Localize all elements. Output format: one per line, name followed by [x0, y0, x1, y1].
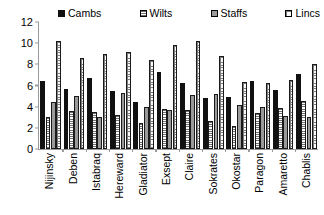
bar-wilts-istabraq	[92, 112, 97, 149]
x-axis-label: Istabraq	[91, 153, 102, 191]
legend-label-staffs: Staffs	[221, 8, 248, 19]
bar-cambs-istabraq	[87, 78, 92, 149]
bar-group	[225, 22, 248, 149]
bar-group	[109, 22, 132, 149]
legend-label-wilts: Wilts	[150, 8, 173, 19]
bar-cambs-gladiator	[133, 102, 138, 149]
x-axis-label-cell: Deben	[61, 153, 84, 213]
y-tick-label: 10	[21, 38, 33, 49]
bar-group	[272, 22, 295, 149]
legend-item-cambs: Cambs	[58, 8, 101, 19]
x-axis-label: Sokrates	[208, 153, 219, 194]
legend-swatch-wilts-icon	[140, 10, 147, 17]
bar-lincs-exsept	[173, 45, 178, 149]
bar-lincs-istabraq	[103, 54, 108, 149]
bar-staffs-amaretto	[283, 116, 288, 149]
bar-cambs-sokrates	[203, 98, 208, 149]
x-axis-label: Claire	[184, 153, 195, 180]
x-axis-label-cell: Okostar	[225, 153, 248, 213]
bar-group	[62, 22, 85, 149]
bar-group	[248, 22, 271, 149]
bar-cambs-chablis	[296, 74, 301, 149]
bar-staffs-okostar	[237, 105, 242, 149]
bar-staffs-deben	[74, 96, 79, 149]
x-axis-label-cell: Istabraq	[85, 153, 108, 213]
x-axis-label: Exsept	[161, 153, 172, 185]
bar-wilts-paragon	[255, 113, 260, 149]
x-axis-label-cell: Hereward	[108, 153, 131, 213]
x-axis-label: Gladiator	[138, 153, 149, 196]
bar-group	[39, 22, 62, 149]
bar-wilts-gladiator	[139, 123, 144, 149]
bar-wilts-exsept	[162, 109, 167, 149]
bar-lincs-sokrates	[219, 56, 224, 149]
bar-wilts-chablis	[301, 101, 306, 149]
y-tick-label: 2	[27, 122, 33, 133]
y-tick-12: 12	[21, 17, 39, 28]
bar-cambs-exsept	[157, 72, 162, 149]
y-tick-6: 6	[27, 80, 39, 91]
bar-cambs-amaretto	[273, 90, 278, 149]
bar-staffs-chablis	[307, 117, 312, 149]
bar-wilts-deben	[69, 111, 74, 149]
bar-cambs-okostar	[226, 97, 231, 149]
bar-cambs-nijinsky	[40, 81, 45, 149]
bar-lincs-claire	[196, 41, 201, 149]
y-tick-10: 10	[21, 38, 39, 49]
y-tick-label: 8	[27, 59, 33, 70]
bar-wilts-sokrates	[208, 121, 213, 149]
y-tick-label: 0	[27, 144, 33, 155]
x-axis-label: Paragon	[254, 153, 265, 193]
bar-staffs-hereward	[121, 93, 126, 149]
legend-label-lincs: Lincs	[295, 8, 320, 19]
y-tick-label: 12	[21, 17, 33, 28]
x-axis-label: Chablis	[301, 153, 312, 188]
legend-label-cambs: Cambs	[68, 8, 101, 19]
bar-group	[295, 22, 318, 149]
bar-wilts-nijinsky	[46, 117, 51, 149]
legend-swatch-cambs-icon	[58, 10, 65, 17]
x-axis-label: Nijinsky	[44, 153, 55, 189]
bar-lincs-okostar	[242, 82, 247, 149]
x-axis-label: Amaretto	[278, 153, 289, 196]
bar-cambs-claire	[180, 83, 185, 149]
legend-item-wilts: Wilts	[140, 8, 173, 19]
legend-item-lincs: Lincs	[285, 8, 320, 19]
x-axis-label: Deben	[68, 153, 79, 184]
y-tick-label: 4	[27, 101, 33, 112]
bar-staffs-istabraq	[97, 117, 102, 149]
bar-cambs-hereward	[110, 91, 115, 149]
legend-swatch-lincs-icon	[285, 10, 292, 17]
bar-group	[155, 22, 178, 149]
bar-chart: Cambs Wilts Staffs Lincs 121086420 Nijin…	[0, 0, 324, 215]
chart-legend: Cambs Wilts Staffs Lincs	[58, 6, 320, 20]
x-axis-label-cell: Sokrates	[201, 153, 224, 213]
bar-staffs-gladiator	[144, 107, 149, 149]
bar-lincs-gladiator	[149, 60, 154, 149]
y-tick-label: 6	[27, 80, 33, 91]
x-axis-label: Okostar	[231, 153, 242, 190]
bar-lincs-deben	[80, 58, 85, 149]
y-tick-2: 2	[27, 122, 39, 133]
bar-cambs-deben	[64, 89, 69, 149]
bar-cambs-paragon	[250, 81, 255, 149]
y-tick-4: 4	[27, 101, 39, 112]
x-axis-label-cell: Exsept	[155, 153, 178, 213]
x-axis-label-cell: Chablis	[295, 153, 318, 213]
bar-staffs-sokrates	[214, 94, 219, 149]
bar-staffs-claire	[190, 95, 195, 149]
x-axis-label-cell: Amaretto	[271, 153, 294, 213]
bar-staffs-nijinsky	[51, 102, 56, 149]
x-axis-label-cell: Gladiator	[131, 153, 154, 213]
bar-wilts-okostar	[232, 126, 237, 149]
bar-lincs-amaretto	[289, 80, 294, 149]
bar-lincs-hereward	[126, 52, 131, 149]
x-axis-labels: NijinskyDebenIstabraqHerewardGladiatorEx…	[38, 153, 318, 213]
legend-item-staffs: Staffs	[211, 8, 248, 19]
bar-staffs-exsept	[167, 110, 172, 149]
plot-area: 121086420	[38, 22, 318, 150]
bar-lincs-chablis	[312, 64, 317, 149]
bar-group	[202, 22, 225, 149]
bar-group	[179, 22, 202, 149]
bar-group	[86, 22, 109, 149]
